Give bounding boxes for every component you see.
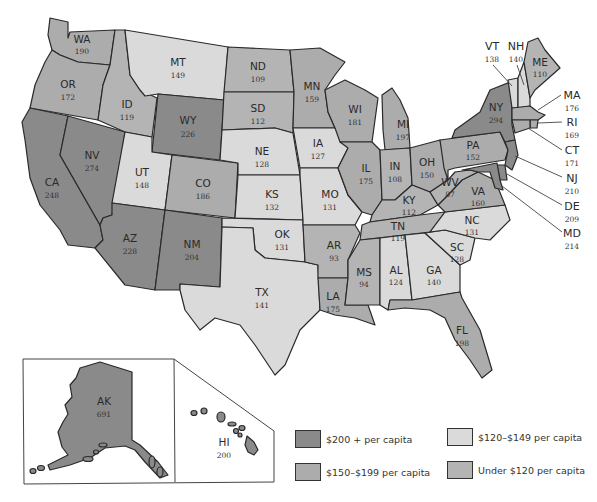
- label-il: IL: [362, 162, 371, 174]
- label-nj: NJ: [566, 172, 577, 185]
- value-ne: 128: [255, 160, 270, 169]
- value-tn: 119: [391, 234, 406, 243]
- value-ca: 248: [45, 191, 60, 200]
- state-ny: [452, 82, 515, 142]
- leader-ct: [528, 128, 562, 150]
- value-nj: 210: [565, 187, 580, 196]
- label-az: AZ: [123, 232, 137, 244]
- legend-item-120-149: $120–$149 per capita: [447, 428, 582, 446]
- label-vt: VT: [485, 40, 500, 53]
- leader-de: [507, 174, 562, 205]
- label-hi: HI: [219, 436, 230, 448]
- label-wa: WA: [74, 33, 92, 45]
- state-wy: [152, 94, 224, 160]
- label-al: AL: [389, 264, 402, 276]
- label-mt: MT: [170, 56, 186, 68]
- island-lanai: [234, 429, 239, 434]
- island-molokai: [228, 422, 236, 426]
- label-de: DE: [564, 200, 579, 213]
- value-md: 214: [565, 242, 580, 251]
- value-in: 108: [388, 175, 403, 184]
- label-ga: GA: [426, 264, 442, 276]
- value-sc: 128: [450, 255, 465, 264]
- label-me: ME: [532, 56, 548, 68]
- value-de: 209: [565, 215, 580, 224]
- label-md: MD: [563, 227, 581, 240]
- value-co: 186: [196, 192, 211, 201]
- legend-swatch: [447, 461, 473, 479]
- value-mo: 131: [323, 203, 337, 212]
- label-tn: TN: [390, 220, 405, 232]
- label-mi: MI: [397, 118, 409, 130]
- legend-swatch: [295, 430, 321, 448]
- label-tx: TX: [254, 286, 269, 298]
- label-ny: NY: [489, 101, 504, 113]
- state-ct: [512, 120, 530, 133]
- label-ks: KS: [265, 188, 279, 200]
- state-ri: [530, 120, 538, 128]
- label-ms: MS: [356, 266, 372, 278]
- value-sd: 112: [251, 117, 266, 126]
- value-nm: 204: [185, 253, 200, 262]
- value-ma: 176: [565, 104, 580, 113]
- value-ak: 691: [97, 410, 111, 419]
- value-ri: 169: [565, 131, 580, 140]
- value-ga: 140: [427, 278, 442, 287]
- value-me: 110: [533, 70, 548, 79]
- value-pa: 152: [466, 153, 481, 162]
- value-wa: 190: [75, 47, 90, 56]
- leader-ma: [538, 95, 561, 110]
- value-ks: 132: [265, 203, 280, 212]
- label-in: IN: [390, 160, 401, 172]
- value-id: 119: [120, 113, 135, 122]
- label-nm: NM: [184, 238, 201, 250]
- value-mi: 197: [396, 133, 411, 142]
- label-or: OR: [60, 78, 76, 90]
- value-or: 172: [61, 93, 76, 102]
- label-nh: NH: [508, 40, 525, 53]
- state-me: [524, 38, 560, 98]
- value-ut: 148: [135, 181, 150, 190]
- value-il: 175: [359, 177, 374, 186]
- value-az: 228: [123, 247, 138, 256]
- leader-ri: [538, 122, 562, 123]
- island-oahu: [217, 412, 225, 422]
- value-nd: 109: [251, 75, 266, 84]
- label-id: ID: [121, 98, 132, 110]
- value-nh: 140: [509, 55, 524, 64]
- value-nv: 274: [85, 164, 100, 173]
- label-co: CO: [195, 177, 211, 189]
- value-wy: 226: [181, 130, 196, 139]
- label-mn: MN: [304, 80, 321, 92]
- legend-swatch: [447, 428, 473, 446]
- value-tx: 141: [255, 301, 269, 310]
- value-mn: 159: [305, 95, 320, 104]
- label-wv: WV: [441, 176, 459, 188]
- label-fl: FL: [456, 324, 468, 336]
- label-ri: RI: [567, 116, 578, 129]
- kodiak-island: [83, 457, 93, 462]
- legend-label: $150–$199 per capita: [326, 467, 430, 478]
- legend-label: Under $120 per capita: [478, 465, 585, 476]
- aleutian-island: [38, 466, 45, 471]
- label-ar: AR: [327, 239, 341, 251]
- label-oh: OH: [419, 156, 435, 168]
- label-ky: KY: [403, 194, 417, 206]
- state-ma: [512, 106, 545, 120]
- label-la: LA: [326, 290, 340, 302]
- value-nc: 131: [465, 228, 479, 237]
- value-ky: 112: [402, 208, 417, 217]
- value-wi: 181: [348, 118, 362, 127]
- label-ma: MA: [563, 89, 580, 102]
- value-ny: 294: [489, 116, 504, 125]
- label-nv: NV: [84, 149, 100, 161]
- label-ia: IA: [313, 137, 324, 149]
- value-ct: 171: [565, 159, 579, 168]
- island-kauai: [191, 411, 197, 416]
- island-niihau: [201, 408, 207, 414]
- value-vt: 138: [485, 55, 500, 64]
- island-kahoolawe: [238, 433, 242, 437]
- legend-item-under-120: Under $120 per capita: [447, 461, 585, 479]
- leader-vt: [493, 65, 512, 86]
- value-va: 160: [471, 199, 486, 208]
